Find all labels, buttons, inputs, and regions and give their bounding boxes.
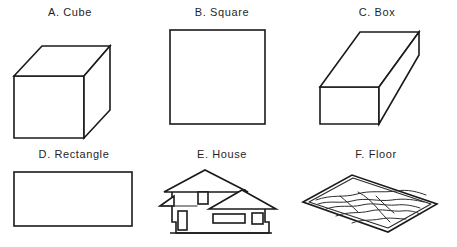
figure-square-art [152,22,292,132]
figure-square-label: B. Square [152,6,292,19]
figure-sheet: A. Cube B. Square C. Box [0,0,457,247]
figure-house-label: E. House [152,148,292,161]
figure-house-art [152,164,292,240]
figure-square: B. Square [152,6,292,136]
figure-box: C. Box [302,6,452,136]
figure-house: E. House [152,148,292,240]
figure-box-art [302,22,452,134]
figure-rectangle-art [0,166,148,238]
figure-floor-label: F. Floor [300,148,452,161]
figure-rectangle-label: D. Rectangle [0,148,148,161]
figure-rectangle: D. Rectangle [0,148,148,240]
figure-cube-art [0,22,140,132]
figure-floor: F. Floor [300,148,452,240]
figure-cube: A. Cube [0,6,140,136]
figure-floor-art [300,164,452,240]
figure-cube-label: A. Cube [0,6,140,19]
figure-box-label: C. Box [302,6,452,19]
